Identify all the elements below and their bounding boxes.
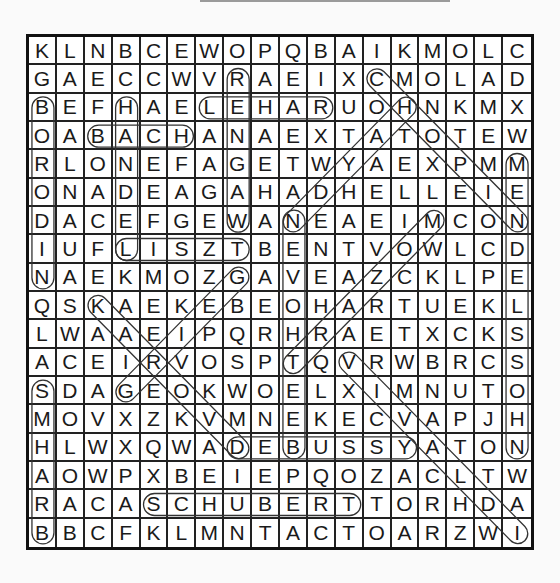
grid-cell[interactable]: A — [392, 519, 420, 547]
grid-cell[interactable]: E — [252, 434, 280, 462]
grid-cell[interactable]: U — [308, 434, 336, 462]
grid-cell[interactable]: X — [503, 94, 531, 122]
grid-cell[interactable]: C — [57, 349, 85, 377]
grid-cell[interactable]: E — [141, 377, 169, 405]
grid-cell[interactable]: W — [419, 235, 447, 263]
grid-cell[interactable]: F — [113, 519, 141, 547]
grid-cell[interactable]: P — [196, 320, 224, 348]
grid-cell[interactable]: R — [29, 490, 57, 518]
grid-cell[interactable]: K — [419, 264, 447, 292]
grid-cell[interactable]: M — [196, 519, 224, 547]
grid-cell[interactable]: V — [336, 349, 364, 377]
grid-cell[interactable]: F — [141, 207, 169, 235]
grid-cell[interactable]: B — [85, 122, 113, 150]
grid-cell[interactable]: O — [168, 377, 196, 405]
grid-cell[interactable]: C — [85, 490, 113, 518]
grid-cell[interactable]: E — [113, 207, 141, 235]
grid-cell[interactable]: B — [308, 37, 336, 65]
grid-cell[interactable]: E — [392, 150, 420, 178]
grid-cell[interactable]: I — [224, 462, 252, 490]
grid-cell[interactable]: S — [224, 349, 252, 377]
grid-cell[interactable]: H — [168, 122, 196, 150]
grid-cell[interactable]: B — [224, 292, 252, 320]
grid-cell[interactable]: W — [503, 122, 531, 150]
grid-cell[interactable]: A — [168, 179, 196, 207]
grid-cell[interactable]: E — [336, 405, 364, 433]
grid-cell[interactable]: N — [224, 519, 252, 547]
grid-cell[interactable]: L — [392, 179, 420, 207]
grid-cell[interactable]: R — [419, 519, 447, 547]
grid-cell[interactable]: W — [168, 434, 196, 462]
grid-cell[interactable]: C — [85, 207, 113, 235]
grid-cell[interactable]: M — [141, 264, 169, 292]
grid-cell[interactable]: R — [308, 94, 336, 122]
grid-cell[interactable]: M — [29, 405, 57, 433]
grid-cell[interactable]: A — [336, 320, 364, 348]
grid-cell[interactable]: R — [252, 320, 280, 348]
grid-cell[interactable]: Y — [392, 434, 420, 462]
grid-cell[interactable]: T — [252, 519, 280, 547]
grid-cell[interactable]: B — [280, 434, 308, 462]
grid-cell[interactable]: P — [113, 462, 141, 490]
grid-cell[interactable]: Z — [364, 462, 392, 490]
grid-cell[interactable]: O — [336, 462, 364, 490]
grid-cell[interactable]: L — [308, 377, 336, 405]
grid-cell[interactable]: O — [419, 122, 447, 150]
grid-cell[interactable]: C — [419, 462, 447, 490]
grid-cell[interactable]: T — [392, 122, 420, 150]
grid-cell[interactable]: E — [475, 122, 503, 150]
grid-cell[interactable]: B — [57, 519, 85, 547]
grid-cell[interactable]: L — [447, 65, 475, 93]
grid-cell[interactable]: A — [224, 179, 252, 207]
grid-cell[interactable]: W — [224, 377, 252, 405]
grid-cell[interactable]: A — [196, 434, 224, 462]
grid-cell[interactable]: A — [336, 37, 364, 65]
grid-cell[interactable]: K — [196, 377, 224, 405]
grid-cell[interactable]: E — [364, 179, 392, 207]
grid-cell[interactable]: T — [280, 150, 308, 178]
grid-cell[interactable]: I — [364, 37, 392, 65]
grid-cell[interactable]: M — [392, 65, 420, 93]
grid-cell[interactable]: L — [57, 37, 85, 65]
grid-cell[interactable]: O — [392, 235, 420, 263]
grid-cell[interactable]: E — [85, 65, 113, 93]
grid-cell[interactable]: M — [419, 37, 447, 65]
grid-cell[interactable]: E — [308, 207, 336, 235]
grid-cell[interactable]: E — [280, 490, 308, 518]
grid-cell[interactable]: E — [224, 94, 252, 122]
grid-cell[interactable]: N — [113, 150, 141, 178]
grid-cell[interactable]: L — [419, 179, 447, 207]
grid-cell[interactable]: P — [447, 150, 475, 178]
grid-cell[interactable]: V — [168, 349, 196, 377]
grid-cell[interactable]: H — [29, 434, 57, 462]
grid-cell[interactable]: E — [308, 264, 336, 292]
grid-cell[interactable]: T — [336, 519, 364, 547]
grid-cell[interactable]: C — [168, 490, 196, 518]
grid-cell[interactable]: K — [85, 292, 113, 320]
grid-cell[interactable]: O — [29, 122, 57, 150]
grid-cell[interactable]: G — [113, 377, 141, 405]
grid-cell[interactable]: O — [364, 519, 392, 547]
grid-cell[interactable]: E — [57, 94, 85, 122]
grid-cell[interactable]: U — [336, 94, 364, 122]
grid-cell[interactable]: Q — [308, 349, 336, 377]
grid-cell[interactable]: M — [475, 94, 503, 122]
grid-cell[interactable]: H — [113, 94, 141, 122]
grid-cell[interactable]: M — [475, 150, 503, 178]
grid-cell[interactable]: N — [419, 94, 447, 122]
grid-cell[interactable]: D — [224, 434, 252, 462]
grid-cell[interactable]: X — [141, 462, 169, 490]
grid-cell[interactable]: A — [280, 179, 308, 207]
grid-cell[interactable]: C — [447, 207, 475, 235]
grid-cell[interactable]: W — [308, 150, 336, 178]
grid-cell[interactable]: H — [252, 94, 280, 122]
grid-cell[interactable]: R — [364, 349, 392, 377]
grid-cell[interactable]: O — [57, 462, 85, 490]
grid-cell[interactable]: X — [336, 65, 364, 93]
grid-cell[interactable]: B — [252, 490, 280, 518]
grid-cell[interactable]: H — [196, 490, 224, 518]
grid-cell[interactable]: E — [196, 462, 224, 490]
grid-cell[interactable]: R — [419, 490, 447, 518]
grid-cell[interactable]: Q — [141, 434, 169, 462]
grid-cell[interactable]: E — [141, 292, 169, 320]
